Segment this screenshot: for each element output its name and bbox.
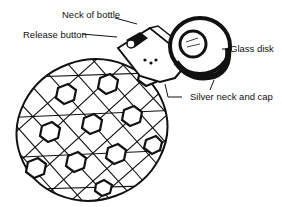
diagram-canvas: Neck of bottle Release button Glass disk…	[0, 0, 282, 207]
cap-glass-disk	[170, 18, 230, 77]
label-silver-neck-and-cap: Silver neck and cap	[190, 92, 273, 102]
label-glass-disk: Glass disk	[230, 44, 274, 54]
label-release-button: Release button	[23, 30, 87, 40]
label-neck-of-bottle: Neck of bottle	[62, 10, 120, 20]
